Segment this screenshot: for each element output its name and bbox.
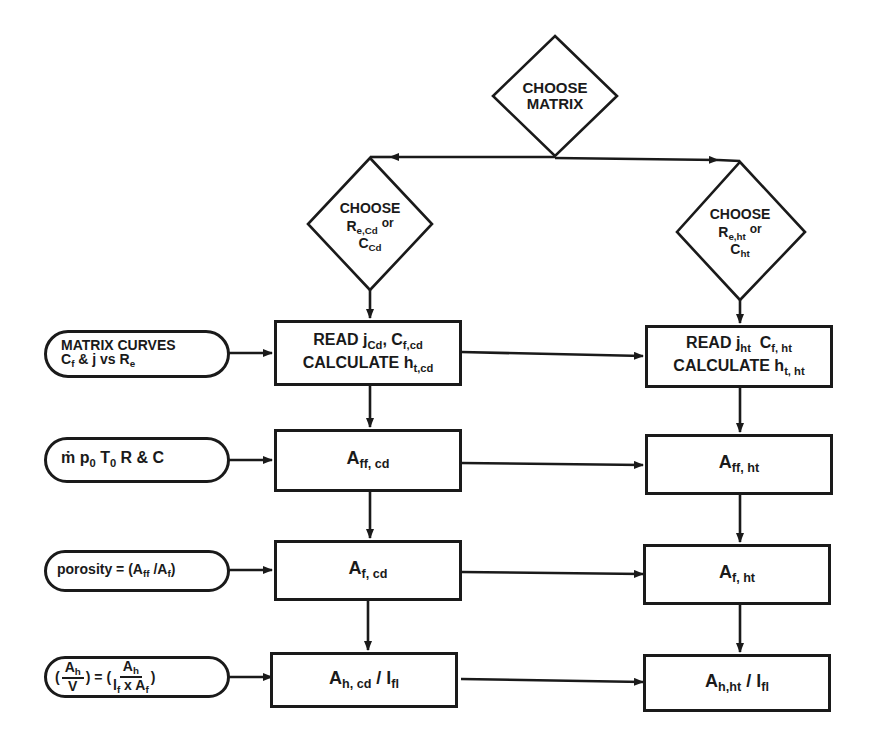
decision-r-expression: Re,ht or [718, 223, 761, 243]
decision-choose-ht: CHOOSE Re,ht or Cht [688, 196, 792, 272]
decision-label: CHOOSE [340, 201, 401, 216]
input-area-density: ( AhV ) = ( Ahlf x Af ) [44, 656, 230, 698]
process-read-cd: READ jCd, Cf,cd CALCULATE ht,cd [274, 320, 462, 386]
input-expression: porosity = (Aff /Af) [57, 562, 175, 580]
process-line-read: READ jCd, Cf,cd [313, 332, 423, 352]
process-line-read: READ jht Cf, ht [686, 335, 792, 355]
decision-c-expression: CCd [358, 236, 381, 254]
decision-label: CHOOSE [522, 80, 587, 97]
input-porosity: porosity = (Aff /Af) [44, 550, 230, 592]
decision-choose-cd: CHOOSE Re,Cd or CCd [318, 190, 422, 266]
process-ah-cd: Ah, cd / lfl [270, 652, 458, 708]
process-line-calculate: CALCULATE ht,cd [303, 355, 434, 375]
process-af-cd: Af, cd [274, 540, 462, 601]
process-expression: Aff, cd [346, 449, 389, 472]
input-matrix-curves: MATRIX CURVES Cf & j vs Re [44, 330, 230, 378]
input-expression: ( AhV ) = ( Ahlf x Af ) [55, 659, 155, 696]
process-read-ht: READ jht Cf, ht CALCULATE ht, ht [645, 325, 833, 388]
process-line-calculate: CALCULATE ht, ht [673, 358, 804, 378]
decision-choose-matrix: CHOOSE MATRIX [500, 66, 610, 126]
process-ah-ht: Ah,ht / lfl [643, 654, 831, 712]
process-aff-cd: Aff, cd [274, 429, 462, 492]
input-expression: Cf & j vs Re [61, 352, 135, 370]
input-flow-parameters: ṁ p0 T0 R & C [44, 437, 230, 483]
process-expression: Af, cd [349, 559, 388, 582]
process-expression: Ah,ht / lfl [705, 672, 769, 695]
process-expression: Af, ht [719, 563, 755, 586]
process-expression: Ah, cd / lfl [329, 669, 399, 692]
decision-label: MATRIX [527, 96, 583, 113]
decision-r-expression: Re,Cd or [346, 217, 393, 237]
input-expression: ṁ p0 T0 R & C [61, 450, 164, 470]
input-label: MATRIX CURVES [61, 338, 176, 353]
process-aff-ht: Aff, ht [645, 434, 833, 495]
decision-c-expression: Cht [730, 242, 749, 260]
decision-label: CHOOSE [710, 207, 771, 222]
process-expression: Aff, ht [719, 453, 759, 476]
process-af-ht: Af, ht [643, 544, 831, 605]
